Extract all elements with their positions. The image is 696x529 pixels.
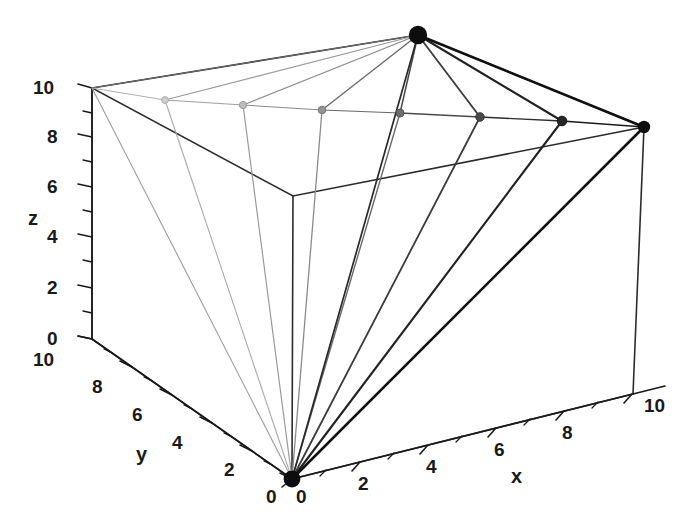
data-point-3 — [318, 106, 326, 114]
z-tick-label-0: 0 — [47, 329, 58, 348]
origin-edge-7 — [292, 127, 644, 479]
apex-edge-2 — [243, 35, 418, 105]
y-tick-label-2: 2 — [224, 460, 235, 479]
origin-edge-5 — [292, 117, 480, 479]
data-point-4 — [396, 109, 404, 117]
apex-edge-6 — [418, 35, 562, 121]
data-point-6 — [557, 116, 567, 126]
z-tick-label-8: 8 — [47, 127, 58, 146]
apex-fan-edges — [92, 35, 644, 127]
three-d-scatter-plot — [0, 0, 696, 529]
x-axis-title: x — [511, 466, 522, 486]
z-axis-minor-ticks — [83, 111, 92, 313]
y-axis-title: y — [136, 444, 147, 464]
z-tick-label-6: 6 — [47, 177, 58, 196]
data-point-5 — [476, 113, 485, 122]
y-axis — [78, 336, 292, 479]
z-tick-label-2: 2 — [47, 278, 58, 297]
z-axis — [78, 84, 92, 339]
data-point-apex — [409, 26, 427, 44]
box-edge-front-vertical — [292, 196, 293, 470]
x-axis-line — [292, 386, 665, 479]
y-tick-label-10: 10 — [33, 350, 54, 369]
z-axis-title: z — [28, 208, 38, 228]
x-tick-label-0: 0 — [296, 487, 307, 506]
box-edge-right-vertical — [633, 127, 644, 394]
y-tick-label-0: 0 — [266, 487, 277, 506]
origin-edge-1 — [165, 100, 292, 479]
y-tick-label-6: 6 — [132, 405, 143, 424]
x-tick-label-2: 2 — [358, 474, 369, 493]
data-point-7 — [638, 121, 650, 133]
chart-canvas: 10 8 6 4 2 0 z 10 8 6 4 2 0 y 0 2 4 6 8 … — [0, 0, 696, 529]
x-tick-label-8: 8 — [562, 423, 573, 442]
z-tick-label-4: 4 — [47, 227, 58, 246]
x-tick-label-6: 6 — [494, 440, 505, 459]
apex-edge-1 — [165, 35, 418, 100]
y-tick-label-4: 4 — [172, 433, 183, 452]
x-tick-label-4: 4 — [426, 457, 437, 476]
y-tick-label-8: 8 — [92, 377, 103, 396]
apex-edge-0 — [92, 35, 418, 88]
y-axis-major-ticks — [78, 336, 292, 479]
origin-edge-6 — [292, 121, 562, 479]
box-top-face — [92, 35, 644, 196]
data-point-2 — [239, 101, 246, 108]
z-tick-label-10: 10 — [33, 78, 54, 97]
data-point-1 — [162, 97, 169, 104]
origin-edge-2 — [243, 105, 292, 479]
data-point-markers — [162, 26, 651, 488]
data-point-origin — [284, 471, 301, 488]
x-tick-label-10: 10 — [644, 396, 665, 415]
origin-edge-apex — [292, 35, 418, 479]
origin-edge-0 — [92, 88, 292, 479]
